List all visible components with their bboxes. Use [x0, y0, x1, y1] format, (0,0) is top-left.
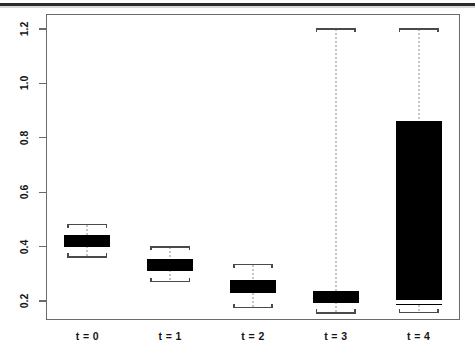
y-axis-tick [39, 300, 46, 301]
x-axis-category-label: t = 2 [241, 330, 264, 342]
y-axis-tick-label-text: 0.2 [18, 294, 30, 309]
x-axis-category-label: t = 1 [159, 330, 182, 342]
y-axis-tick-label: 0.2 [12, 294, 36, 308]
cap-serif-right [437, 28, 439, 32]
boxplot-figure: 0.20.40.60.81.01.2 t = 0t = 1t = 2t = 3t… [0, 0, 475, 355]
boxplot-median-line [396, 300, 442, 304]
y-axis-tick [39, 28, 46, 29]
boxplot-iqr-box [396, 121, 442, 305]
whisker-cap-upper [399, 28, 439, 30]
boxplot-series [46, 14, 460, 320]
y-axis-tick-label: 0.4 [12, 240, 36, 254]
y-axis-tick-label: 0.8 [12, 131, 36, 145]
y-axis-tick-label-text: 0.8 [18, 130, 30, 145]
y-axis-tick-label-text: 1.0 [18, 76, 30, 91]
y-axis-tick-label: 1.2 [12, 22, 36, 36]
x-axis-category-label: t = 4 [407, 330, 430, 342]
y-axis-tick-label-text: 0.6 [18, 185, 30, 200]
scan-artifact-band-soft [0, 6, 475, 8]
cap-serif-left [399, 309, 401, 313]
cap-serif-right [437, 309, 439, 313]
y-axis-tick [39, 246, 46, 247]
y-axis-tick [39, 83, 46, 84]
x-axis-category-label: t = 3 [324, 330, 347, 342]
y-axis-tick-label-text: 1.2 [18, 22, 30, 37]
whisker-upper [418, 29, 419, 121]
y-axis-tick [39, 192, 46, 193]
boxplot-box-group [46, 14, 460, 320]
x-axis-category-label: t = 0 [76, 330, 99, 342]
y-axis-tick [39, 137, 46, 138]
y-axis-tick-label: 1.0 [12, 76, 36, 90]
cap-serif-left [399, 28, 401, 32]
y-axis-tick-label-text: 0.4 [18, 239, 30, 254]
y-axis-tick-label: 0.6 [12, 185, 36, 199]
whisker-cap-lower [399, 312, 439, 314]
